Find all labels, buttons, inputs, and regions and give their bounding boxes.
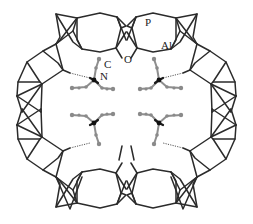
framework-lower-right xyxy=(127,109,236,208)
template-molecule-upper-right xyxy=(138,57,183,91)
framework-upper-right xyxy=(127,13,236,112)
label-oxygen: O xyxy=(124,54,132,65)
framework-bottom-center-stub-right xyxy=(131,146,134,160)
label-aluminum: Al xyxy=(161,40,172,51)
label-nitrogen: N xyxy=(100,71,108,82)
framework-bottom-center-stub-left xyxy=(119,146,122,160)
template-molecule-lower-left xyxy=(70,112,115,146)
label-phosphorus: P xyxy=(145,17,151,28)
framework-diagram xyxy=(0,0,253,224)
label-carbon: C xyxy=(104,59,111,70)
figure: P Al O C N xyxy=(0,0,253,224)
template-molecule-lower-right xyxy=(138,112,183,146)
framework-lower-left xyxy=(17,109,126,208)
